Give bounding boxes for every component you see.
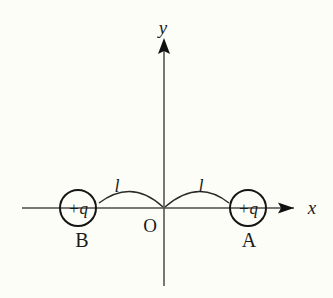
distance-arc-left: [99, 191, 163, 207]
physics-diagram: +q +q B A O l l x y: [0, 0, 333, 298]
distance-label-left: l: [114, 176, 119, 196]
point-label-a: A: [242, 229, 257, 251]
origin-label: O: [143, 215, 157, 236]
distance-arc-right: [165, 191, 229, 207]
x-axis-label: x: [307, 197, 317, 218]
y-axis-label: y: [157, 17, 168, 38]
charge-b-label: +q: [68, 199, 88, 218]
point-label-b: B: [75, 229, 88, 251]
distance-label-right: l: [198, 176, 203, 196]
charge-a-label: +q: [238, 199, 258, 218]
